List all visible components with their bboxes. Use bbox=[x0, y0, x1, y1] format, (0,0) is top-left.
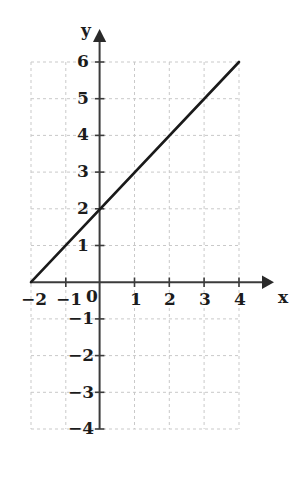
x-tick-label-4: 4 bbox=[234, 291, 246, 308]
origin-label: 0 bbox=[86, 288, 98, 305]
y-tick-label-neg3: −3 bbox=[68, 384, 94, 401]
x-tick-label-3: 3 bbox=[199, 291, 211, 308]
x-axis-arrow-icon bbox=[262, 276, 274, 289]
x-tick-label-neg1: −1 bbox=[56, 291, 82, 308]
graph-canvas bbox=[0, 0, 296, 479]
x-tick-label-neg2: −2 bbox=[21, 291, 47, 308]
y-axis-label: y bbox=[81, 22, 91, 39]
y-axis-arrow-icon bbox=[93, 29, 106, 42]
y-tick-label-4: 4 bbox=[77, 126, 89, 143]
y-tick-label-6: 6 bbox=[77, 53, 89, 70]
y-tick-label-1: 1 bbox=[77, 237, 89, 254]
coordinate-plane-graph: y x 6 5 4 3 2 1 −1 −2 −3 −4 −2 −1 0 1 2 … bbox=[0, 0, 296, 479]
x-tick-label-2: 2 bbox=[164, 291, 176, 308]
x-axis bbox=[31, 276, 274, 289]
y-axis bbox=[93, 29, 106, 429]
y-tick-label-neg1: −1 bbox=[68, 310, 94, 327]
y-tick-label-neg4: −4 bbox=[68, 420, 94, 437]
grid-lines bbox=[31, 62, 239, 429]
x-tick-label-1: 1 bbox=[130, 291, 142, 308]
y-tick-label-neg2: −2 bbox=[68, 347, 94, 364]
y-tick-label-2: 2 bbox=[77, 200, 89, 217]
y-tick-label-5: 5 bbox=[77, 90, 89, 107]
y-tick-label-3: 3 bbox=[77, 163, 89, 180]
x-axis-label: x bbox=[278, 289, 288, 306]
